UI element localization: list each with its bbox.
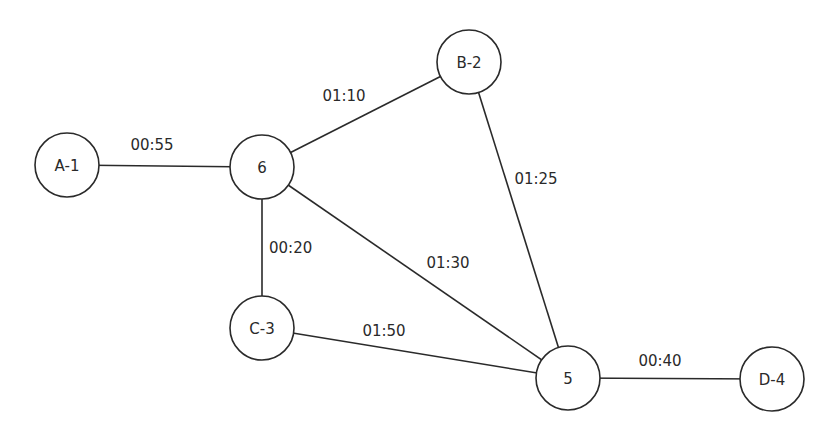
node-d-4: D-4 (740, 347, 804, 411)
node-label: 6 (257, 159, 267, 177)
graph-diagram: 00:5501:1001:2500:2001:3001:5000:40 A-16… (0, 0, 836, 432)
edge-labels-layer: 00:5501:1001:2500:2001:3001:5000:40 (130, 87, 681, 370)
node-label: 5 (563, 370, 573, 388)
node-label: C-3 (249, 320, 274, 338)
edge-6-5 (262, 167, 568, 378)
edges-layer (67, 62, 772, 379)
edge-weight-label: 01:30 (426, 254, 469, 272)
edge-weight-label: 00:40 (638, 352, 681, 370)
edge-weight-label: 01:50 (362, 322, 405, 340)
node-label: D-4 (759, 371, 786, 389)
node-6: 6 (230, 135, 294, 199)
edge-weight-label: 00:20 (269, 239, 312, 257)
edge-c-3-5 (262, 328, 568, 378)
edge-b-2-5 (469, 62, 568, 378)
node-label: A-1 (55, 157, 80, 175)
node-c-3: C-3 (230, 296, 294, 360)
edge-weight-label: 01:25 (514, 170, 557, 188)
node-b-2: B-2 (437, 30, 501, 94)
node-5: 5 (536, 346, 600, 410)
edge-6-b-2 (262, 62, 469, 167)
edge-weight-label: 00:55 (130, 136, 173, 154)
node-a-1: A-1 (35, 133, 99, 197)
node-label: B-2 (456, 54, 481, 72)
edge-weight-label: 01:10 (322, 87, 365, 105)
